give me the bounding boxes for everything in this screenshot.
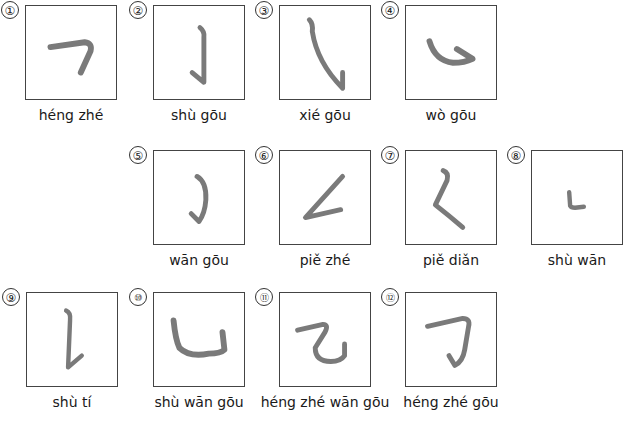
stroke-number: ⑦ <box>381 146 399 164</box>
stroke-number: ⑧ <box>507 146 525 164</box>
stroke-box <box>279 292 371 387</box>
stroke-number: ⑩ <box>129 288 147 306</box>
stroke-number: ① <box>1 1 19 19</box>
stroke-number: ⑫ <box>381 288 399 306</box>
stroke-box <box>279 150 371 245</box>
stroke-number: ⑥ <box>255 146 273 164</box>
shu-gou-stroke-icon <box>154 6 244 99</box>
stroke-box <box>153 292 245 387</box>
shu-wan-stroke-icon <box>532 151 622 244</box>
wo-gou-stroke-icon <box>406 6 496 99</box>
stroke-number: ④ <box>381 1 399 19</box>
stroke-pinyin: wò gōu <box>365 107 537 123</box>
stroke-box <box>26 292 118 387</box>
stroke-box <box>405 150 497 245</box>
pie-dian-stroke-icon <box>406 151 496 244</box>
shu-wan-gou-stroke-icon <box>154 293 244 386</box>
heng-zhe-gou-stroke-icon <box>406 293 496 386</box>
heng-zhe-wan-gou-stroke-icon <box>280 293 370 386</box>
stroke-pinyin: héng zhé gōu <box>365 394 537 410</box>
wan-gou-stroke-icon <box>154 151 244 244</box>
heng-zhe-stroke-icon <box>26 6 116 99</box>
stroke-pinyin: shù wān <box>491 252 628 268</box>
stroke-box <box>531 150 623 245</box>
stroke-number: ⑨ <box>2 288 20 306</box>
stroke-box <box>405 5 497 100</box>
stroke-box <box>25 5 117 100</box>
pie-zhe-stroke-icon <box>280 151 370 244</box>
stroke-number: ③ <box>255 1 273 19</box>
xie-gou-stroke-icon <box>280 6 370 99</box>
stroke-number: ② <box>129 1 147 19</box>
stroke-number: ⑪ <box>255 288 273 306</box>
stroke-box <box>405 292 497 387</box>
stroke-box <box>153 5 245 100</box>
stroke-box <box>153 150 245 245</box>
stroke-number: ⑤ <box>129 146 147 164</box>
stroke-box <box>279 5 371 100</box>
shu-ti-stroke-icon <box>27 293 117 386</box>
